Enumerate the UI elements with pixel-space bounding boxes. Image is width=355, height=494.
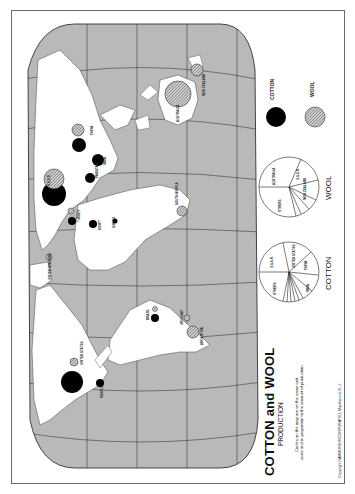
cotton-circle-turkey: [68, 217, 76, 225]
legend-cotton-icon: [266, 107, 286, 127]
label-south-africa: SOUTH AFRICA: [175, 182, 179, 205]
cotton-circle-china: [72, 138, 86, 152]
wool-pie-title: WOOL: [324, 176, 333, 200]
cotton-circle-brazil: [151, 314, 159, 322]
wool-circle-australia: [165, 81, 191, 107]
wool-circle-south-africa: [177, 206, 187, 216]
cotton-slice-ussr: U.S.S.R.: [270, 256, 274, 268]
cotton-pie-title: COTTON: [324, 256, 333, 290]
cotton-circle-pakistan: [85, 173, 95, 183]
label-uruguay: URUGUAY: [180, 310, 184, 325]
label-china: CHINA: [90, 126, 94, 136]
wool-slice-new-zealand: NEW ZEALAND: [303, 178, 307, 200]
copyright: Copyright HAMMOND INCORPORATED, Maplewoo…: [338, 383, 342, 478]
label-pakistan: PAKISTAN: [95, 163, 99, 178]
legend-wool-icon: [305, 107, 325, 127]
label-sudan: SUDAN: [112, 217, 116, 228]
label-united-kingdom: UNITED KINGDOM: [48, 254, 52, 281]
wool-circle-china: [72, 124, 84, 136]
wool-circle-brazil: [153, 307, 158, 312]
wool-slice-australia: AUSTRALIA: [272, 168, 276, 185]
wool-slice-others: OTHERS: [278, 199, 282, 212]
label-new-zealand: NEW ZEALAND: [202, 74, 206, 96]
label-argentina: ARGENTINA: [200, 327, 204, 345]
label-united-states: UNITED STATES: [80, 342, 84, 365]
cotton-slice-india: INDIA: [306, 284, 310, 292]
label-brazil: BRAZIL: [146, 309, 150, 320]
cotton-pie-chart: [259, 242, 319, 302]
wool-slice-ussr: U.S.S.R.: [296, 168, 300, 180]
wool-circle-uruguay: [184, 315, 190, 321]
label-turkey: TURKEY: [77, 210, 81, 222]
cotton-slice-united-states: UNITED STATES: [292, 245, 296, 268]
label-mexico: MEXICO: [100, 386, 104, 398]
note-line-2: scale and in proportion to the amount of…: [299, 364, 304, 460]
page-subtitle: PRODUCTION: [277, 402, 284, 446]
label-india: INDIA: [103, 157, 107, 165]
wool-circle-argentina: [187, 326, 199, 338]
cotton-circle-egypt: [89, 220, 97, 228]
label-australia: AUSTRALIA: [176, 105, 180, 122]
legend-wool-label: WOOL: [309, 81, 315, 97]
cotton-slice-others: OTHERS: [273, 282, 277, 295]
cotton-slice-china: CHINA: [304, 261, 308, 271]
cotton-circle-united-states: [61, 371, 83, 393]
label-egypt: EGYPT: [98, 220, 102, 230]
wool-circle-turkey: [68, 208, 74, 214]
label-ussr: U.S.S.R.: [47, 174, 51, 186]
wool-circle-united-states: [70, 358, 78, 366]
wool-pie-chart: [259, 157, 319, 217]
legend-cotton-label: COTTON: [269, 79, 275, 100]
page-title: COTTON and WOOL: [262, 348, 277, 476]
